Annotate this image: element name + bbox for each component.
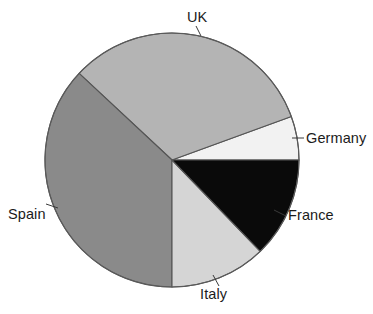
pie-label-spain: Spain xyxy=(8,207,46,222)
pie-label-uk: UK xyxy=(187,10,207,25)
pie-label-germany: Germany xyxy=(306,131,366,146)
pie-slices-group xyxy=(45,33,299,287)
pie-chart: UK Germany France Italy Spain xyxy=(0,0,373,314)
pie-label-italy: Italy xyxy=(200,287,227,302)
pie-label-france: France xyxy=(288,208,334,223)
leader-line-uk xyxy=(196,26,201,36)
pie-chart-svg xyxy=(0,0,373,314)
